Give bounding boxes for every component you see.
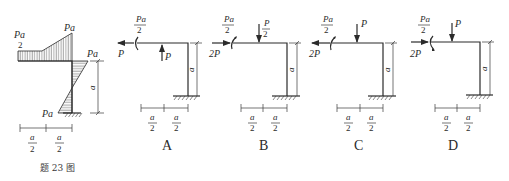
svg-text:2: 2 xyxy=(30,144,35,154)
svg-text:2: 2 xyxy=(225,25,230,35)
column-moment-lower xyxy=(58,88,72,113)
svg-text:a: a xyxy=(369,112,374,122)
svg-text:2: 2 xyxy=(57,144,62,154)
svg-text:a: a xyxy=(346,112,351,122)
beam-right-moment: Pa xyxy=(63,22,75,33)
fixed-support-icon xyxy=(466,95,493,99)
svg-text:Pa: Pa xyxy=(135,14,146,24)
option-label: D xyxy=(448,138,458,153)
svg-text:a: a xyxy=(444,112,449,122)
svg-text:P: P xyxy=(263,18,270,28)
svg-text:a: a xyxy=(87,85,97,90)
fixed-support-icon xyxy=(272,96,300,100)
beam-left-moment-num: Pa xyxy=(13,29,25,40)
svg-text:a: a xyxy=(286,67,296,72)
svg-text:2: 2 xyxy=(273,123,278,133)
svg-text:a: a xyxy=(273,112,278,122)
svg-text:P: P xyxy=(454,18,461,29)
moment-diagram-figure: Pa 2 Pa Pa Pa a a 2 a 2 题 23 图 xyxy=(13,22,104,173)
option-label: A xyxy=(162,138,173,153)
svg-text:a: a xyxy=(466,112,471,122)
svg-text:2: 2 xyxy=(466,123,471,133)
option-b[interactable]: Pa 2 2P P 2 a a 2 a 2 B xyxy=(209,14,301,153)
svg-text:a: a xyxy=(57,132,62,142)
svg-text:2: 2 xyxy=(250,123,255,133)
column-moment-upper xyxy=(72,61,88,88)
svg-text:a: a xyxy=(382,67,392,72)
svg-text:a: a xyxy=(30,132,35,142)
svg-text:a: a xyxy=(174,112,179,122)
svg-text:2: 2 xyxy=(444,123,449,133)
svg-text:2: 2 xyxy=(263,29,268,39)
beam-left-moment-den: 2 xyxy=(18,40,23,50)
option-label: B xyxy=(259,138,268,153)
svg-text:Pa: Pa xyxy=(419,14,430,24)
svg-text:2P: 2P xyxy=(309,48,320,59)
problem-23-figure: Pa 2 Pa Pa Pa a a 2 a 2 题 23 图 xyxy=(0,0,509,181)
svg-text:a: a xyxy=(150,112,155,122)
option-label: C xyxy=(354,138,363,153)
svg-text:P: P xyxy=(117,48,124,59)
frame xyxy=(233,43,287,96)
option-c[interactable]: Pa 2 2P P a a 2 a 2 C xyxy=(309,14,397,153)
moment-arc-icon xyxy=(430,36,434,50)
svg-text:2: 2 xyxy=(324,25,329,35)
svg-text:2: 2 xyxy=(174,123,179,133)
frame xyxy=(332,43,383,96)
svg-text:a: a xyxy=(250,112,255,122)
svg-text:2: 2 xyxy=(150,123,155,133)
svg-text:P: P xyxy=(360,18,367,29)
svg-text:P: P xyxy=(164,51,171,62)
svg-text:2: 2 xyxy=(137,25,142,35)
fixed-support-icon xyxy=(63,113,82,117)
option-a[interactable]: Pa 2 P P a a 2 a 2 A xyxy=(117,14,202,153)
option-d[interactable]: Pa 2 2P P a a 2 a 2 D xyxy=(410,14,494,153)
column-top-moment: Pa xyxy=(86,48,98,59)
beam-moment-area xyxy=(18,33,72,61)
fixed-support-icon xyxy=(173,96,200,100)
frame xyxy=(430,42,480,95)
span-dimensions: a 2 a 2 xyxy=(20,124,72,154)
fixed-support-icon xyxy=(368,96,396,100)
svg-text:2: 2 xyxy=(369,123,374,133)
svg-text:Pa: Pa xyxy=(223,14,234,24)
column-dimension: a xyxy=(87,59,104,115)
svg-text:2P: 2P xyxy=(209,48,220,59)
svg-text:a: a xyxy=(186,67,196,72)
figure-caption: 题 23 图 xyxy=(40,163,75,173)
column-bottom-moment: Pa xyxy=(41,108,53,119)
svg-text:Pa: Pa xyxy=(322,14,333,24)
svg-text:a: a xyxy=(479,66,489,71)
svg-text:2: 2 xyxy=(346,123,351,133)
svg-text:2: 2 xyxy=(421,25,426,35)
svg-text:2P: 2P xyxy=(410,48,421,59)
